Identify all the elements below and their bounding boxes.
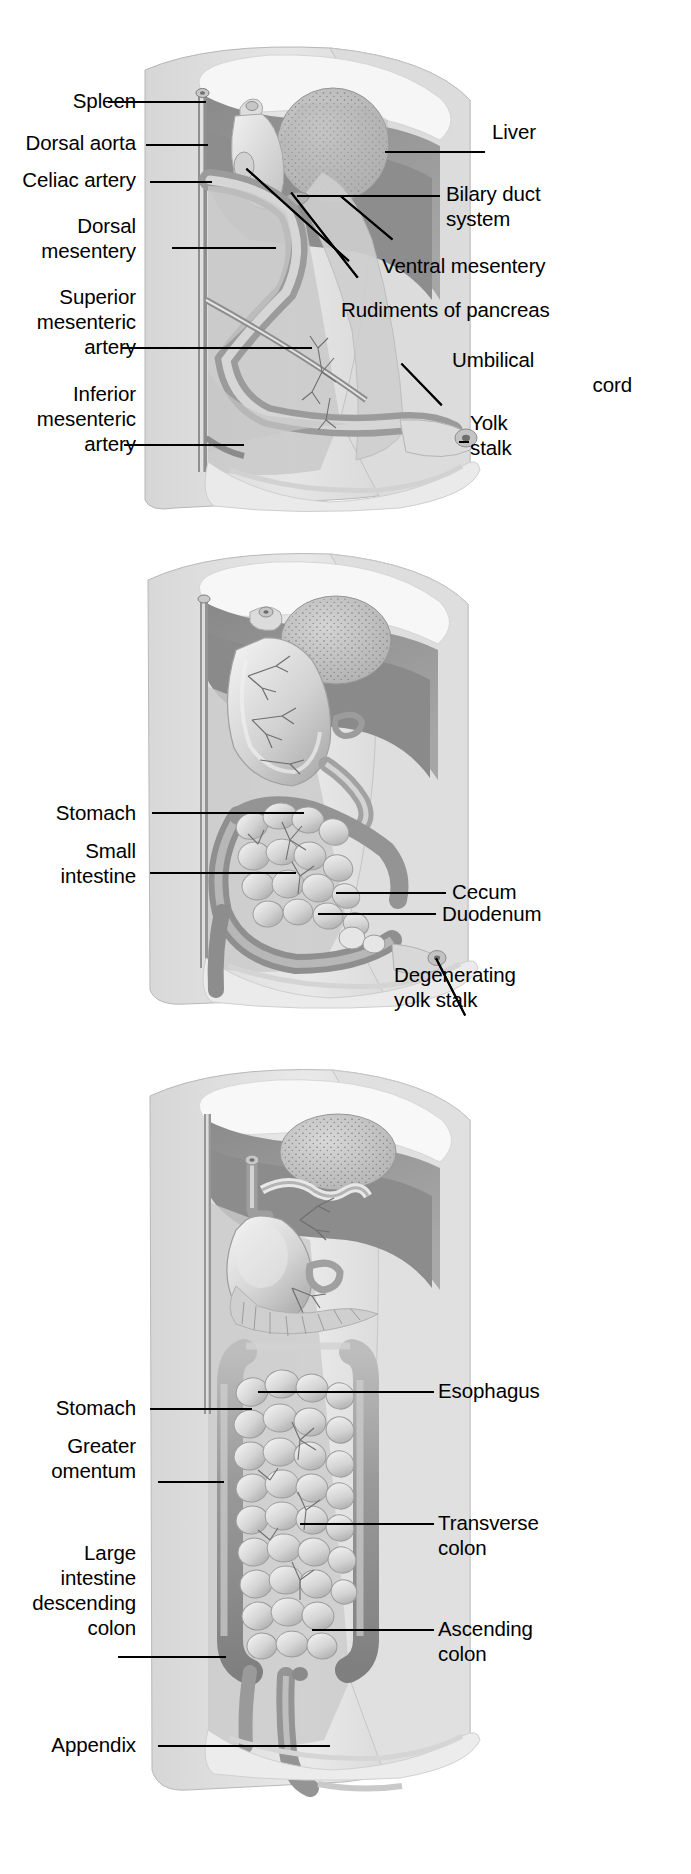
leader-superior-mesenteric	[122, 347, 312, 349]
label-umbilical-cord-line1: Umbilical	[452, 347, 632, 372]
label-yolk-stalk-line1: Yolk	[470, 410, 630, 435]
leader-inferior-mesenteric	[124, 444, 244, 446]
label-appendix: Appendix	[16, 1732, 136, 1757]
panel-early-gut-stage: Spleen Dorsal aorta Celiac artery Dorsal…	[0, 0, 691, 520]
panel-3-labels: Stomach Greater omentum Large intestine …	[0, 1040, 691, 1874]
label-celiac-artery: Celiac artery	[4, 167, 136, 192]
label-small-intestine-line2: intestine	[6, 863, 136, 888]
label-inferior-mesenteric-line1: Inferior	[6, 381, 136, 406]
panel-mature-gut-stage: Stomach Greater omentum Large intestine …	[0, 1040, 691, 1874]
label-ventral-mesentery: Ventral mesentery	[382, 253, 632, 278]
label-greater-omentum-line2: omentum	[16, 1458, 136, 1483]
label-ascending-colon-line2: colon	[438, 1641, 658, 1666]
label-esophagus: Esophagus	[438, 1378, 658, 1403]
leader-stomach-p2	[152, 812, 304, 814]
label-bilary-duct-line1: Bilary duct	[446, 181, 626, 206]
panel-looping-gut-stage: Stomach Small intestine Duodenum Cecum D…	[0, 520, 691, 1040]
leader-dorsal-aorta	[146, 144, 208, 146]
leader-liver	[385, 151, 485, 153]
label-cecum: Cecum	[452, 879, 632, 904]
leader-ascending-colon	[312, 1629, 434, 1631]
label-ascending-colon-line1: Ascending	[438, 1616, 658, 1641]
leader-ventral-mesentery	[340, 195, 393, 240]
leader-rudiments-b	[290, 192, 358, 278]
label-superior-mesenteric-line2: mesenteric	[6, 309, 136, 334]
label-transverse-colon-line2: colon	[438, 1535, 658, 1560]
leader-esophagus	[258, 1391, 434, 1393]
label-inferior-mesenteric-line3: artery	[6, 431, 136, 456]
label-superior-mesenteric-line3: artery	[6, 334, 136, 359]
label-bilary-duct-line2: system	[446, 206, 626, 231]
leader-umbilical-cord	[401, 363, 443, 406]
label-dorsal-mesentery-line1: Dorsal	[6, 213, 136, 238]
label-rudiments-of-pancreas: Rudiments of pancreas	[341, 297, 641, 322]
label-degenerating-yolk-stalk-line1: Degenerating	[394, 962, 634, 987]
leader-celiac-artery	[150, 181, 212, 183]
label-duodenum: Duodenum	[442, 901, 642, 926]
leader-large-intestine	[118, 1656, 226, 1658]
leader-spleen	[108, 101, 206, 103]
label-liver: Liver	[492, 119, 642, 144]
leader-dorsal-mesentery	[172, 247, 276, 249]
label-large-intestine-line2: intestine	[16, 1565, 136, 1590]
label-inferior-mesenteric-line2: mesenteric	[6, 406, 136, 431]
label-large-intestine-line4: colon	[16, 1615, 136, 1640]
leader-cecum	[336, 892, 446, 894]
leader-duodenum	[318, 913, 436, 915]
label-large-intestine-line1: Large	[16, 1540, 136, 1565]
anatomy-figure: Spleen Dorsal aorta Celiac artery Dorsal…	[0, 0, 691, 1874]
label-dorsal-aorta: Dorsal aorta	[6, 130, 136, 155]
leader-yolk-stalk	[459, 441, 469, 443]
label-umbilical-cord-line2: cord	[452, 372, 632, 397]
leader-bilary-duct	[297, 195, 440, 197]
leader-stomach-p3	[150, 1408, 252, 1410]
label-superior-mesenteric-line1: Superior	[6, 284, 136, 309]
panel-1-labels: Spleen Dorsal aorta Celiac artery Dorsal…	[0, 0, 691, 520]
panel-2-labels: Stomach Small intestine Duodenum Cecum D…	[0, 520, 691, 1040]
leader-transverse-colon	[300, 1523, 434, 1525]
label-small-intestine-line1: Small	[6, 838, 136, 863]
label-large-intestine-line3: descending	[16, 1590, 136, 1615]
leader-appendix	[158, 1745, 330, 1747]
label-yolk-stalk-line2: stalk	[470, 435, 630, 460]
label-transverse-colon-line1: Transverse	[438, 1510, 658, 1535]
label-stomach-p2: Stomach	[16, 800, 136, 825]
label-greater-omentum-line1: Greater	[16, 1433, 136, 1458]
label-degenerating-yolk-stalk-line2: yolk stalk	[394, 987, 634, 1012]
leader-greater-omentum	[158, 1481, 224, 1483]
leader-small-intestine	[150, 872, 296, 874]
label-stomach-p3: Stomach	[16, 1395, 136, 1420]
label-dorsal-mesentery-line2: mesentery	[6, 238, 136, 263]
